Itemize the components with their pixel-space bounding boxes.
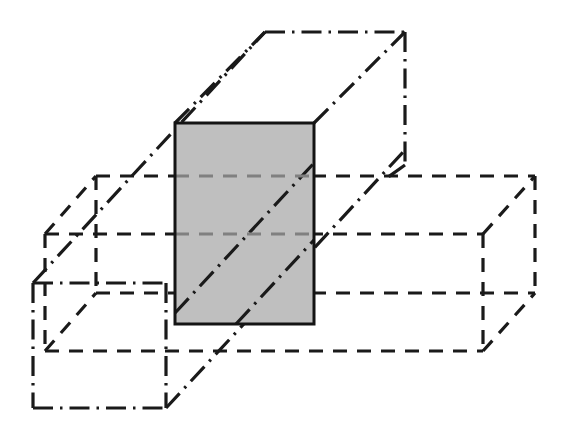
intersection-shaded-rectangle [175,123,314,324]
horizontal-box-depth-edge-bottom-right [483,293,535,351]
vertical-box-back-right-lower-diagonal [384,165,405,180]
vertical-box-top-right-edge [314,32,405,123]
horizontal-box-depth-edge-bottom-left [45,293,96,351]
vertical-box-top-left-edge [175,32,265,123]
figure-root: Intersection of two rectangular prisms T… [0,0,562,438]
horizontal-box-depth-edge-top-right [483,176,535,234]
intersection-face-group [175,123,314,324]
intersecting-prisms-diagram: Intersection of two rectangular prisms T… [0,0,562,438]
